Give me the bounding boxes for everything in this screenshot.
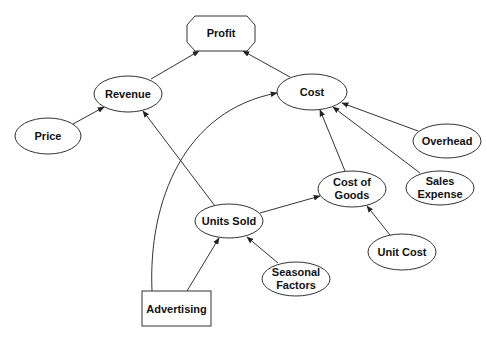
node-label-line2: Goods — [335, 189, 370, 201]
node-overhead[interactable]: Overhead — [413, 124, 481, 158]
node-label: Overhead — [422, 135, 473, 147]
edge-unitcost-to-costofgoods — [367, 206, 390, 235]
edge-revenue-to-profit — [151, 51, 199, 79]
node-profit[interactable]: Profit — [187, 16, 255, 51]
edge-advertising-to-cost — [152, 93, 277, 291]
edge-price-to-revenue — [73, 107, 104, 124]
edge-unitssold-to-costofgoods — [260, 196, 320, 213]
node-label-line1: Cost of — [333, 176, 371, 188]
edge-costofgoods-to-cost — [320, 110, 345, 171]
edge-unitssold-to-revenue — [143, 111, 215, 206]
node-label: Revenue — [105, 88, 151, 100]
edge-overhead-to-cost — [342, 103, 418, 131]
edge-cost-to-profit — [243, 51, 290, 77]
node-cost-of-goods[interactable]: Cost of Goods — [318, 171, 386, 207]
node-units-sold[interactable]: Units Sold — [195, 204, 263, 238]
edge-advertising-to-unitssold — [187, 238, 219, 291]
node-label-line1: Seasonal — [272, 266, 320, 278]
node-label: Unit Cost — [378, 246, 427, 258]
node-seasonal-factors[interactable]: Seasonal Factors — [262, 262, 330, 296]
edge-salesexpense-to-cost — [333, 107, 420, 173]
node-label-line1: Sales — [426, 175, 455, 187]
node-label: Price — [35, 130, 62, 142]
node-label: Advertising — [146, 303, 207, 315]
node-label-line2: Factors — [276, 279, 316, 291]
node-cost[interactable]: Cost — [277, 74, 347, 110]
node-label: Units Sold — [202, 215, 256, 227]
node-label: Cost — [300, 86, 325, 98]
node-unit-cost[interactable]: Unit Cost — [368, 234, 436, 270]
edge-seasonalfactors-to-unitssold — [247, 237, 278, 263]
node-revenue[interactable]: Revenue — [94, 76, 162, 112]
node-sales-expense[interactable]: Sales Expense — [406, 171, 474, 205]
node-label: Profit — [207, 27, 236, 39]
node-label-line2: Expense — [417, 188, 462, 200]
node-price[interactable]: Price — [15, 118, 81, 154]
influence-diagram: Profit Revenue Cost Price Overhead Sales… — [0, 0, 487, 339]
node-advertising[interactable]: Advertising — [142, 291, 211, 326]
